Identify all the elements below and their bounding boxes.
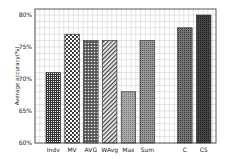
- x-axis-labels: IndvMVAVGWAvgMaxSumCCS: [47, 146, 208, 154]
- bar-wavg: [102, 41, 117, 143]
- y-tick-label: 70%: [19, 75, 33, 82]
- x-label-mv: MV: [67, 146, 77, 153]
- y-tick-label: 65%: [19, 107, 33, 114]
- bar-sum: [140, 41, 155, 143]
- bar-indv: [46, 73, 61, 143]
- x-label-c: C: [183, 146, 187, 153]
- y-tick-label: 80%: [19, 11, 33, 18]
- x-label-indv: Indv: [47, 146, 60, 153]
- bar-c: [178, 28, 193, 143]
- bar-cs: [196, 15, 211, 143]
- y-axis-label: Average accuracy(%): [14, 47, 21, 106]
- bar-max: [121, 92, 136, 143]
- x-label-max: Max: [122, 146, 135, 153]
- bar-avg: [84, 41, 99, 143]
- x-label-cs: CS: [200, 146, 208, 153]
- x-label-avg: AVG: [85, 146, 98, 153]
- y-tick-label: 60%: [19, 139, 33, 146]
- x-label-wavg: WAvg: [101, 146, 118, 154]
- y-tick-label: 75%: [19, 43, 33, 50]
- x-label-sum: Sum: [141, 146, 155, 153]
- bar-chart: 60%65%70%75%80% IndvMVAVGWAvgMaxSumCCS A…: [0, 0, 234, 159]
- y-axis-ticks: 60%65%70%75%80%: [19, 11, 33, 146]
- bar-mv: [65, 34, 80, 143]
